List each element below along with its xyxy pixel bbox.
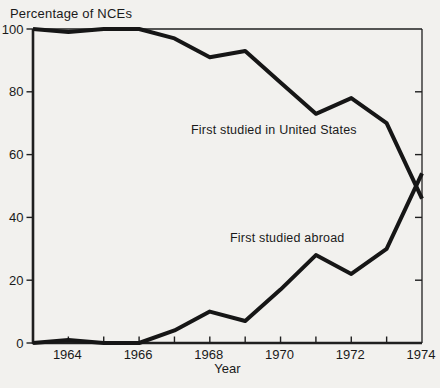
- x-tick-label: 1970: [265, 347, 294, 362]
- y-tick-label: 100: [2, 22, 24, 37]
- x-tick-label: 1968: [194, 347, 223, 362]
- series-label-first-studied-abroad: First studied abroad: [230, 231, 344, 245]
- chart-canvas: 020406080100196419661968197019721974: [0, 0, 440, 388]
- y-tick-label: 0: [16, 336, 23, 351]
- series-line-united-states: [33, 29, 422, 199]
- y-tick-label: 40: [9, 210, 23, 225]
- x-tick-label: 1974: [407, 347, 436, 362]
- x-tick-label: 1964: [53, 347, 82, 362]
- x-axis-title: Year: [33, 361, 422, 376]
- y-tick-label: 80: [9, 84, 23, 99]
- series-label-first-studied-in-united-states: First studied in United States: [191, 123, 357, 137]
- x-tick-label: 1966: [124, 347, 153, 362]
- nce-percentage-chart: Percentage of NCEs 020406080100196419661…: [0, 0, 440, 388]
- y-tick-label: 20: [9, 273, 23, 288]
- y-tick-label: 60: [9, 147, 23, 162]
- x-tick-label: 1972: [336, 347, 365, 362]
- series-line-abroad: [33, 173, 422, 343]
